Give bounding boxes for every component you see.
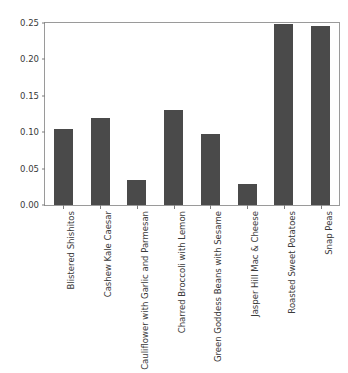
- x-tick-label-text: Cashew Kale Caesar: [104, 211, 113, 297]
- x-tick-label-text: Cauliflower with Garlic and Parmesan: [141, 211, 150, 370]
- x-tick-label-text: Green Goddess Beans with Sesame: [215, 211, 224, 362]
- x-tick-label-text: Snap Peas: [325, 211, 334, 255]
- x-tick-label-text: Charred Broccoli with Lemon: [178, 211, 187, 333]
- y-tick-label: 0.15: [20, 92, 45, 101]
- cropped-title-sliver: [0, 0, 348, 7]
- bar-series: [45, 23, 339, 205]
- y-tick-label: 0.05: [20, 164, 45, 173]
- bar-chart-figure: 0.000.050.100.150.200.25 Blistered Shish…: [0, 0, 348, 373]
- x-tick-label: Snap Peas: [321, 167, 330, 211]
- x-tick-label: Blistered Shishitos: [63, 133, 72, 211]
- plot-area: 0.000.050.100.150.200.25 Blistered Shish…: [44, 22, 340, 206]
- x-tick-label: Green Goddess Beans with Sesame: [210, 60, 219, 211]
- y-tick-label: 0.10: [20, 128, 45, 137]
- y-tick-label: 0.20: [20, 55, 45, 64]
- x-tick-label: Cashew Kale Caesar: [100, 125, 109, 211]
- x-tick-label: Jasper Hill Mac & Cheese: [247, 105, 256, 211]
- y-tick-label: 0.00: [20, 201, 45, 210]
- x-tick-label-text: Jasper Hill Mac & Cheese: [251, 211, 260, 317]
- x-tick-label-text: Roasted Sweet Potatoes: [288, 211, 297, 314]
- x-tick-label-text: Blistered Shishitos: [68, 211, 77, 289]
- x-tick-label: Charred Broccoli with Lemon: [174, 89, 183, 211]
- x-tick-label: Cauliflower with Garlic and Parmesan: [137, 52, 146, 211]
- x-tick-label: Roasted Sweet Potatoes: [284, 108, 293, 211]
- y-tick-label: 0.25: [20, 19, 45, 28]
